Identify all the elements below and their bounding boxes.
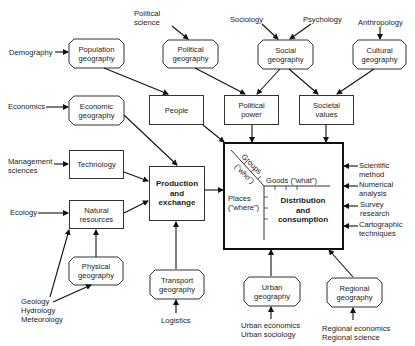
box-political-geography: Political geography <box>163 40 218 68</box>
label-psychology: Psychology <box>303 15 342 24</box>
box-social-geography: Social geography <box>258 40 313 69</box>
arrow-technology-to-production <box>124 172 148 181</box>
label-urban-disciplines: Urban economics Urban sociology <box>241 321 300 339</box>
arrow-people-to-distribution <box>203 125 224 142</box>
label-cartographic-techniques: Cartographic techniques <box>359 220 402 238</box>
arrow-polsci-to-political <box>172 26 188 39</box>
label-numerical-analysis: Numerical analysis <box>359 180 393 198</box>
label-survey-research: Survey research <box>360 200 390 218</box>
box-political-power: Political power <box>224 95 279 125</box>
label-anthropology: Anthropology <box>358 18 403 27</box>
box-regional-geography: Regional geography <box>327 278 382 307</box>
arrow-geology-to-natural <box>50 230 69 297</box>
arrow-natural-to-production <box>124 201 148 213</box>
label-sociology: Sociology <box>230 15 263 24</box>
box-technology: Technology <box>69 150 124 179</box>
box-cultural-geography: Cultural geography <box>353 40 406 69</box>
box-transport-geography: Transport geography <box>150 270 204 299</box>
arrow-social-to-societal <box>289 69 318 94</box>
box-natural-resources: Natural resources <box>69 200 124 229</box>
box-people: People <box>149 95 204 125</box>
arrow-social-to-polpower <box>257 69 280 94</box>
arrow-cultural-to-societal <box>337 69 374 94</box>
label-economics: Economics <box>8 102 45 111</box>
box-societal-values: Societal values <box>299 95 354 125</box>
distribution-title: Distribution and consumption <box>268 196 338 225</box>
label-scientific-method: Scientific method <box>359 161 389 179</box>
label-goods: Goods ("what") <box>266 176 317 185</box>
label-political-science: Political science <box>134 9 160 27</box>
arrow-population-to-people <box>104 68 168 94</box>
arrow-psychology-to-social <box>290 24 311 39</box>
box-production-exchange: Production and exchange <box>149 166 205 221</box>
box-population-geography: Population geography <box>69 39 124 68</box>
label-demography: Demography <box>9 48 52 57</box>
box-urban-geography: Urban geography <box>244 277 300 306</box>
label-logistics: Logistics <box>161 316 191 325</box>
arrow-political-to-polpower <box>195 68 245 94</box>
label-places: Places ("where") <box>228 194 259 212</box>
label-geology-group: Geology Hydrology Meteorology <box>21 297 63 324</box>
label-ecology: Ecology <box>10 208 37 217</box>
label-regional-disciplines: Regional economics Regional science <box>322 324 390 342</box>
label-management-sciences: Management sciences <box>8 157 52 175</box>
box-economic-geography: Economic geography <box>69 96 124 125</box>
arrow-sociology-to-social <box>262 24 278 39</box>
arrow-regional-to-distribution <box>329 250 353 277</box>
box-physical-geography: Physical geography <box>69 257 123 285</box>
